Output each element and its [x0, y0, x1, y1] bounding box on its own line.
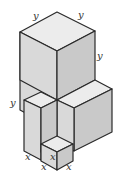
- label-bottom-mid-x: x: [41, 161, 47, 172]
- label-right-vertical-y: y: [96, 50, 103, 61]
- label-left-vertical-y: y: [9, 97, 16, 108]
- label-small-cube-x: x: [50, 151, 56, 162]
- label-bottom-left-x: x: [25, 151, 31, 162]
- block-diagram: y y y y x x x x: [0, 0, 122, 175]
- label-bottom-right-x: x: [66, 161, 72, 172]
- label-top-right-y: y: [77, 9, 84, 20]
- label-top-left-y: y: [32, 10, 39, 21]
